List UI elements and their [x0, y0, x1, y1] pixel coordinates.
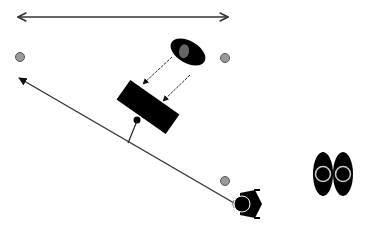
person-icon — [233, 190, 263, 218]
panel-stand — [128, 121, 137, 143]
viewer-eyes-icon — [313, 152, 353, 196]
reflector-panel-icon — [117, 80, 180, 134]
marker-top-right — [221, 54, 230, 63]
light-ray-1 — [143, 57, 172, 84]
lighting-diagram — [0, 0, 365, 230]
light-source-icon — [166, 33, 210, 71]
light-ray-2 — [163, 75, 190, 101]
marker-top-left — [16, 53, 25, 62]
marker-bottom-right — [221, 177, 230, 186]
